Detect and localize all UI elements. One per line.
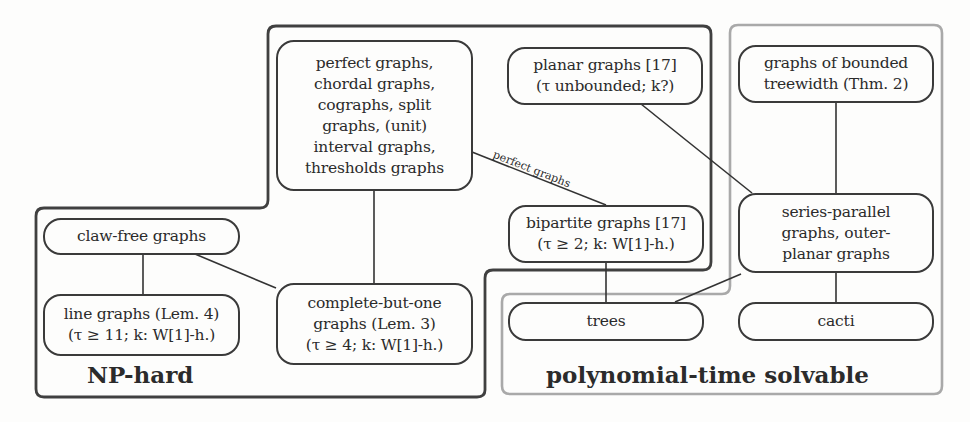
node-text: cacti	[818, 311, 855, 332]
node-text: graphs, (unit)	[322, 116, 427, 137]
node-text: graphs, outer-	[782, 223, 891, 244]
node-text: interval graphs,	[314, 137, 436, 158]
node-planar-graphs: planar graphs [17] (τ unbounded; k?)	[507, 47, 703, 105]
node-complete-but-one: complete-but-one graphs (Lem. 3) (τ ≥ 4;…	[276, 283, 473, 365]
edge-planar-series-parallel	[641, 104, 752, 193]
node-text: (τ ≥ 11; k: W[1]-h.)	[68, 325, 215, 346]
node-text: chordal graphs,	[314, 74, 435, 95]
node-bipartite-graphs: bipartite graphs [17] (τ ≥ 2; k: W[1]-h.…	[508, 205, 704, 263]
node-text: (τ ≥ 2; k: W[1]-h.)	[537, 234, 674, 255]
graph-class-diagram: perfect graphs, chordal graphs, cographs…	[0, 0, 970, 422]
node-trees: trees	[508, 302, 704, 341]
node-text: complete-but-one	[307, 293, 441, 314]
node-text: thresholds graphs	[305, 158, 444, 179]
polynomial-time-solvable-label: polynomial-time solvable	[546, 361, 869, 388]
edge-claw-free-complete-but-one	[195, 254, 276, 288]
node-text: planar graphs [17]	[533, 55, 676, 76]
node-text: planar graphs	[782, 244, 890, 265]
node-perfect-graphs: perfect graphs, chordal graphs, cographs…	[276, 40, 473, 191]
node-text: graphs (Lem. 3)	[313, 314, 435, 335]
np-hard-label: NP-hard	[87, 361, 193, 388]
node-cacti: cacti	[738, 302, 934, 341]
node-claw-free-graphs: claw-free graphs	[43, 218, 240, 255]
node-text: bipartite graphs [17]	[526, 213, 686, 234]
node-bounded-treewidth: graphs of bounded treewidth (Thm. 2)	[738, 45, 934, 103]
node-text: cographs, split	[318, 95, 431, 116]
node-text: series-parallel	[782, 202, 891, 223]
node-text: treewidth (Thm. 2)	[764, 74, 909, 95]
node-line-graphs: line graphs (Lem. 4) (τ ≥ 11; k: W[1]-h.…	[43, 294, 240, 356]
node-text: graphs of bounded	[764, 53, 908, 74]
node-series-parallel: series-parallel graphs, outer- planar gr…	[738, 193, 934, 273]
node-text: trees	[587, 311, 626, 332]
node-text: claw-free graphs	[77, 226, 206, 247]
node-text: (τ ≥ 4; k: W[1]-h.)	[306, 335, 443, 356]
node-text: line graphs (Lem. 4)	[64, 304, 219, 325]
node-text: perfect graphs,	[316, 53, 434, 74]
node-text: (τ unbounded; k?)	[536, 76, 674, 97]
